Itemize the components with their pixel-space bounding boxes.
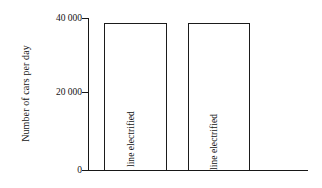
bars-layer: Before rail line electrified After rail … [0,0,322,188]
bar-label-before-electrified: Before rail line electrified [126,111,136,170]
bar-before-electrified: Before rail line electrified [104,23,167,170]
bar-after-electrified: After rail line electrified [188,23,250,170]
bar-label-container: Before rail line electrified [105,24,166,170]
bar-chart: Number of cars per day 40 000 20 000 0 B… [0,0,322,188]
bar-label-after-electrified: After rail line electrified [209,114,219,170]
bar-label-container: After rail line electrified [189,24,249,170]
